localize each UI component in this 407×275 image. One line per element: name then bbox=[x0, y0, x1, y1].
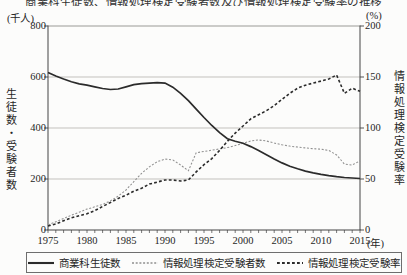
legend-label-examinees: 情報処理検定受験者数 bbox=[163, 255, 266, 270]
y-tick-label-right: 100 bbox=[365, 122, 381, 134]
x-tick-label: 1985 bbox=[116, 235, 137, 246]
x-tick-label: 2010 bbox=[311, 235, 332, 246]
y-tick-label-left: 600 bbox=[18, 71, 46, 83]
legend-label-students: 商業科生徒数 bbox=[59, 255, 121, 270]
legend-item-examinees: 情報処理検定受験者数 bbox=[132, 255, 266, 270]
fine-dotted-line-sample-icon bbox=[132, 259, 158, 267]
solid-line-sample-icon bbox=[28, 259, 54, 267]
chart-figure: 商業科生徒数、情報処理検定受験者数及び情報処理検定受験率の推移 (千人) (%)… bbox=[0, 0, 407, 275]
y-tick-label-right: 50 bbox=[365, 173, 376, 185]
x-tick-label: 1995 bbox=[194, 235, 215, 246]
x-tick-label: 1975 bbox=[38, 235, 59, 246]
x-axis-unit: (年) bbox=[367, 235, 384, 250]
line-chart-plot-area bbox=[0, 0, 407, 275]
series-line-3 bbox=[48, 75, 360, 226]
x-tick-label: 1990 bbox=[155, 235, 176, 246]
series-line-2 bbox=[48, 140, 360, 225]
dashed-line-sample-icon bbox=[277, 259, 303, 267]
y-tick-label-left: 400 bbox=[18, 122, 46, 134]
x-axis-tick-labels: 197519801985199019952000200520102015 bbox=[0, 235, 407, 249]
x-tick-label: 2000 bbox=[233, 235, 254, 246]
x-tick-label: 2005 bbox=[272, 235, 293, 246]
legend-item-students: 商業科生徒数 bbox=[28, 255, 121, 270]
series-line-1 bbox=[48, 72, 360, 178]
y-tick-label-left: 200 bbox=[18, 173, 46, 185]
y-tick-label-right: 200 bbox=[365, 20, 381, 32]
legend-label-pass-rate: 情報処理検定受験率 bbox=[308, 255, 401, 270]
legend: 商業科生徒数 情報処理検定受験者数 情報処理検定受験率 bbox=[26, 252, 402, 273]
y-tick-label-left: 800 bbox=[18, 20, 46, 32]
y-tick-label-right: 150 bbox=[365, 71, 381, 83]
x-tick-label: 1980 bbox=[77, 235, 98, 246]
legend-item-pass-rate: 情報処理検定受験率 bbox=[277, 255, 401, 270]
